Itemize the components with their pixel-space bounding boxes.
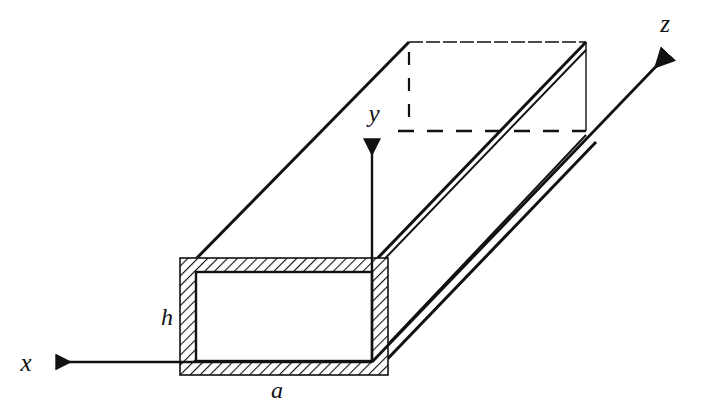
waveguide-figure: x y z h a [0,0,702,414]
edge-top-left-long [190,42,409,265]
edge-top-right-long [371,42,586,265]
x-axis-label: x [19,349,31,376]
z-axis-line [372,55,667,362]
y-axis-label: y [365,100,380,127]
waveguide-diagram-canvas: x y z h a [0,0,702,414]
front-cross-section [180,258,388,375]
edge-hidden-back-diagonal [371,131,398,266]
back-face-hidden-edges [398,42,586,131]
z-axis-label: z [659,10,670,37]
height-dimension-label: h [161,304,173,330]
width-dimension-label: a [271,377,283,403]
edge-inner-top-long [372,50,586,272]
edge-bottom-right-long [374,142,596,373]
waveguide-aperture [196,272,372,361]
